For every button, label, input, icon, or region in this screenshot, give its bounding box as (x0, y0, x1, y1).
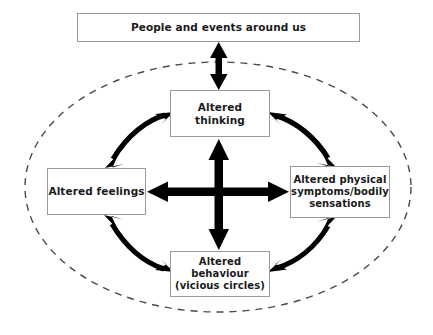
arrow-feelings-to-thinking (105, 112, 174, 168)
node-box-altered-feelings: Altered feelings (47, 168, 146, 215)
node-label-altered-behaviour: Altered behaviour (vicious circles) (171, 256, 269, 291)
arrow-context-to-thinking (210, 42, 228, 90)
node-label-altered-physical-symptoms: Altered physical symptoms/bodily sensati… (291, 174, 389, 209)
node-label-altered-feelings: Altered feelings (48, 185, 144, 197)
arrow-thinking-to-physical (268, 112, 336, 167)
node-box-context: People and events around us (77, 13, 360, 42)
arrow-behaviour-to-physical (268, 217, 336, 272)
arrow-feelings-to-behaviour (104, 215, 174, 272)
node-box-altered-thinking: Altered thinking (170, 90, 270, 137)
node-label-context: People and events around us (131, 21, 306, 33)
node-box-altered-behaviour: Altered behaviour (vicious circles) (170, 251, 270, 297)
node-box-altered-physical-symptoms: Altered physical symptoms/bodily sensati… (290, 166, 390, 218)
diagram-canvas: People and events around us Altered thin… (0, 0, 433, 335)
node-label-altered-thinking: Altered thinking (171, 101, 269, 126)
